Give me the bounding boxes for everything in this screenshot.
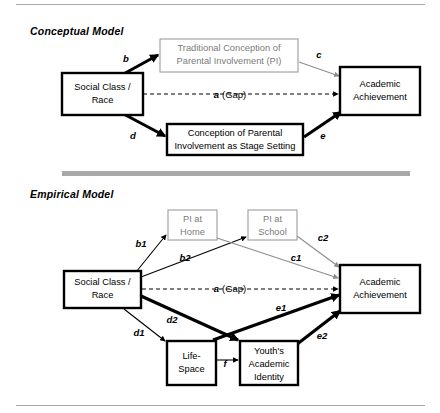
- node-academic-identity[interactable]: Youth's Academic Identity: [240, 341, 298, 385]
- node-life-space-line1: Life-: [182, 351, 200, 361]
- empirical-model-group: b1 b2 c1 c2 a (Gap) d1 d2 e1 e2 f PI at …: [64, 210, 420, 385]
- node-academic-achievement-line2: Achievement: [353, 92, 407, 102]
- edge-label-d2: d2: [166, 314, 178, 325]
- edge-c1-line: [217, 238, 338, 278]
- diagram-svg: b c a (Gap) d e Traditional Conception o…: [0, 0, 440, 413]
- node-academic-achievement-conceptual[interactable]: Academic Achievement: [340, 67, 420, 115]
- edge-label-a: a: [214, 89, 219, 100]
- node-academic-identity-line3: Identity: [254, 372, 284, 382]
- empirical-edge-labels: b1 b2 c1 c2 a (Gap) d1 d2 e1 e2 f: [133, 232, 329, 369]
- edge-label-c: c: [316, 49, 322, 60]
- node-social-class-line2: Race: [92, 95, 114, 105]
- figure-canvas: Conceptual Model Empirical Model: [0, 0, 440, 413]
- node-traditional-pi-line1: Traditional Conception of: [177, 43, 280, 53]
- node-academic-achievement-empirical-line2: Achievement: [353, 290, 407, 300]
- node-social-class-conceptual[interactable]: Social Class / Race: [62, 73, 143, 115]
- edge-label-e2: e2: [317, 330, 328, 341]
- edge-label-c2: c2: [318, 232, 329, 243]
- edge-label-e1: e1: [276, 302, 287, 313]
- node-stage-setting-line2: Involvement as Stage Setting: [175, 141, 296, 151]
- node-academic-achievement-empirical-line1: Academic: [360, 277, 401, 287]
- edge-label-b1: b1: [135, 238, 146, 249]
- node-pi-home[interactable]: PI at Home: [168, 210, 217, 240]
- node-academic-achievement-line1: Academic: [360, 79, 401, 89]
- edge-label-e: e: [320, 130, 326, 141]
- edge-label-a-empirical: a: [214, 283, 219, 294]
- edge-label-c1: c1: [291, 252, 302, 263]
- node-life-space-line2: Space: [178, 364, 204, 374]
- node-academic-identity-line1: Youth's: [254, 346, 284, 356]
- node-social-class-empirical-line1: Social Class /: [74, 277, 131, 287]
- node-traditional-pi-line2: Parental Involvement (PI): [177, 56, 282, 66]
- node-academic-identity-line2: Academic: [249, 359, 290, 369]
- node-life-space[interactable]: Life- Space: [167, 341, 216, 385]
- edge-label-a-gap-empirical: (Gap): [222, 283, 246, 294]
- node-pi-school-line1: PI at: [263, 214, 283, 224]
- node-social-class-empirical[interactable]: Social Class / Race: [64, 271, 141, 308]
- edge-label-b2: b2: [179, 252, 191, 263]
- node-stage-setting[interactable]: Conception of Parental Involvement as St…: [167, 124, 303, 155]
- node-pi-school-line2: School: [258, 227, 286, 237]
- node-pi-home-line2: Home: [180, 227, 205, 237]
- node-pi-school[interactable]: PI at School: [248, 210, 297, 240]
- edge-label-d: d: [130, 130, 136, 141]
- edge-b2-line: [141, 237, 246, 277]
- edge-label-a-gap: (Gap): [222, 89, 246, 100]
- node-pi-home-line1: PI at: [183, 214, 203, 224]
- edge-label-d1: d1: [133, 327, 144, 338]
- node-academic-achievement-empirical[interactable]: Academic Achievement: [340, 265, 420, 313]
- node-stage-setting-line1: Conception of Parental: [188, 128, 283, 138]
- edge-label-b: b: [123, 53, 129, 64]
- empirical-edges: [124, 235, 340, 360]
- node-social-class-empirical-line2: Race: [92, 290, 114, 300]
- node-social-class-line1: Social Class /: [74, 82, 131, 92]
- edge-c-line: [299, 62, 339, 76]
- node-traditional-pi[interactable]: Traditional Conception of Parental Invol…: [160, 39, 298, 72]
- conceptual-model-group: b c a (Gap) d e Traditional Conception o…: [62, 39, 420, 155]
